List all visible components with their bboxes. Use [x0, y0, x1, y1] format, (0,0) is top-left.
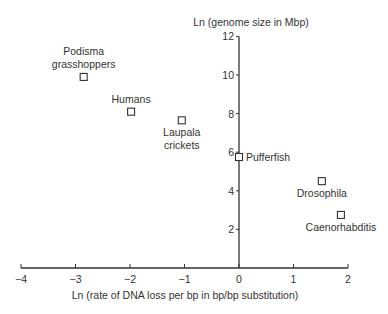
data-point: Drosophila: [297, 178, 347, 200]
point-label: grasshoppers: [52, 58, 116, 70]
point-label: crickets: [164, 139, 200, 151]
point-label: Caenorhabditis: [306, 221, 377, 233]
x-tick-label: 2: [345, 273, 351, 285]
point-label: Pufferfish: [246, 151, 290, 163]
scatter-chart: −4−3−2−101224681012 PodismagrasshoppersH…: [0, 0, 388, 314]
data-point: Humans: [112, 93, 151, 116]
y-tick-label: 10: [222, 69, 234, 81]
data-point: Podismagrasshoppers: [52, 45, 116, 81]
y-tick-label: 8: [228, 108, 234, 120]
point-label: Laupala: [163, 126, 201, 138]
point-label: Podisma: [63, 45, 104, 57]
x-tick-label: 0: [236, 273, 242, 285]
x-tick-label: 1: [291, 273, 297, 285]
y-axis-label: Ln (genome size in Mbp): [193, 16, 309, 28]
square-marker-icon: [318, 178, 325, 185]
y-tick-label: 4: [228, 185, 234, 197]
square-marker-icon: [236, 154, 243, 161]
point-label: Humans: [112, 93, 151, 105]
x-tick-label: −4: [15, 273, 27, 285]
y-tick-label: 12: [222, 30, 234, 42]
x-tick-label: −3: [70, 273, 82, 285]
y-tick-label: 2: [228, 223, 234, 235]
square-marker-icon: [337, 211, 344, 218]
data-points: PodismagrasshoppersHumansLaupalacrickets…: [52, 45, 376, 233]
x-tick-label: −1: [179, 273, 191, 285]
x-axis-label: Ln (rate of DNA loss per bp in bp/bp sub…: [72, 289, 298, 301]
square-marker-icon: [178, 117, 185, 124]
data-point: Laupalacrickets: [163, 117, 201, 151]
square-marker-icon: [80, 73, 87, 80]
data-point: Pufferfish: [236, 151, 291, 163]
x-tick-label: −2: [124, 273, 136, 285]
square-marker-icon: [128, 108, 135, 115]
data-point: Caenorhabditis: [306, 211, 377, 233]
y-tick-label: 6: [228, 146, 234, 158]
point-label: Drosophila: [297, 187, 347, 199]
